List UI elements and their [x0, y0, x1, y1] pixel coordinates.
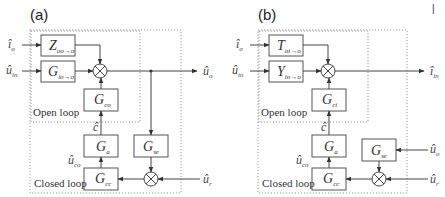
- open-loop-label: Open loop: [261, 106, 308, 118]
- corner-mark: |: [432, 3, 435, 14]
- input-u-in: ûin: [232, 63, 244, 79]
- block-diagram-canvas: | (a) Zoo→o Gio→o Gco Ga Gcc: [0, 0, 445, 197]
- block-g-co: Gco: [84, 89, 118, 111]
- output-i-in: îin: [430, 64, 439, 80]
- block-g-se: Gse: [362, 139, 396, 161]
- closed-loop-label: Closed loop: [262, 177, 315, 189]
- block-g-a: Ga: [312, 135, 346, 157]
- summing-junction-main: [93, 64, 107, 78]
- block-y-in-o: Yin→o: [269, 61, 303, 82]
- panel-a-label: (a): [30, 6, 48, 23]
- summing-junction-main: [321, 64, 335, 78]
- output-u-o: ûo: [203, 64, 213, 80]
- panel-a: (a) Zoo→o Gio→o Gco Ga Gcc Gse: [6, 6, 213, 193]
- signal-c: ĉ: [321, 120, 327, 134]
- signal-c: ĉ: [93, 120, 99, 134]
- block-t-oi-o: Toi→o: [269, 35, 303, 56]
- block-g-se: Gse: [134, 135, 168, 157]
- summing-junction-error: [144, 172, 158, 186]
- input-u-in: ûin: [6, 63, 18, 79]
- panel-b-label: (b): [258, 6, 276, 23]
- block-z-oo-o: Zoo→o: [41, 35, 75, 56]
- input-u-o: ûo: [430, 142, 440, 158]
- signal-u-co: ûco: [68, 153, 81, 169]
- input-i-o: îo: [236, 37, 243, 53]
- panel-b: (b) Toi→o Yin→o Gci Ga Gcc Gse: [232, 6, 440, 193]
- signal-u-co: ûco: [296, 153, 309, 169]
- input-u-r: ûr: [430, 172, 439, 188]
- open-loop-label: Open loop: [33, 106, 80, 118]
- summing-junction-error: [372, 172, 386, 186]
- block-g-cc: Gcc: [84, 168, 118, 190]
- block-g-a: Ga: [84, 135, 118, 157]
- block-g-ci: Gci: [312, 89, 346, 111]
- closed-loop-label: Closed loop: [34, 177, 87, 189]
- block-g-io-o: Gio→o: [41, 61, 75, 82]
- input-i-o: îo: [8, 37, 15, 53]
- input-u-r: ûr: [203, 172, 212, 188]
- block-g-cc: Gcc: [312, 168, 346, 190]
